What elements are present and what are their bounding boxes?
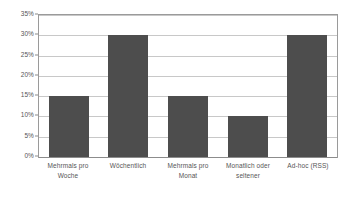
y-tick-label: 15% (21, 92, 34, 99)
y-tick-label: 20% (21, 72, 34, 79)
plot-area (38, 14, 338, 158)
bar-slot (277, 15, 337, 157)
x-tick-label-line: Woche (38, 171, 98, 181)
y-tick-label: 0% (24, 153, 34, 160)
bar[interactable] (168, 96, 208, 157)
bar-chart: 0%5%10%15%20%25%30%35% Mehrmals proWoche… (0, 0, 352, 197)
bar-slot (218, 15, 278, 157)
x-tick-label-line: Monat (158, 171, 218, 181)
x-tick-label-line: Mehrmals pro (38, 161, 98, 171)
bar[interactable] (228, 116, 268, 157)
x-tick-label-line: seltener (218, 171, 278, 181)
x-tick-label-line: Ad-hoc (RSS) (278, 161, 338, 171)
x-tick-label: Mehrmals proWoche (38, 161, 98, 181)
x-tick-label-line: Wöchentlich (98, 161, 158, 171)
gridline (39, 157, 337, 158)
bar-slot (158, 15, 218, 157)
x-axis: Mehrmals proWocheWöchentlichMehrmals pro… (38, 161, 338, 193)
x-tick-label: Monatlich oderseltener (218, 161, 278, 181)
y-axis: 0%5%10%15%20%25%30%35% (0, 14, 34, 158)
bar[interactable] (49, 96, 89, 157)
x-tick-label: Mehrmals proMonat (158, 161, 218, 181)
y-tick-label: 10% (21, 112, 34, 119)
y-tick-label: 25% (21, 51, 34, 58)
x-tick-label-line: Mehrmals pro (158, 161, 218, 171)
x-tick-label: Wöchentlich (98, 161, 158, 171)
x-tick-label-line: Monatlich oder (218, 161, 278, 171)
bar[interactable] (108, 35, 148, 157)
y-tick-label: 30% (21, 31, 34, 38)
bar-slot (99, 15, 159, 157)
bar[interactable] (287, 35, 327, 157)
bars-group (39, 15, 337, 157)
y-tick-label: 5% (24, 132, 34, 139)
bar-slot (39, 15, 99, 157)
y-tick-label: 35% (21, 11, 34, 18)
x-tick-label: Ad-hoc (RSS) (278, 161, 338, 171)
